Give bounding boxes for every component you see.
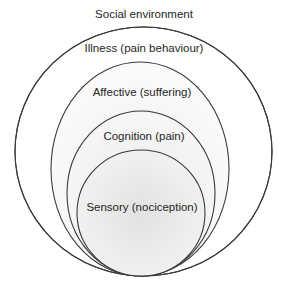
- affective-label: Affective (suffering): [0, 85, 286, 99]
- illness-label: Illness (pain behaviour): [0, 41, 288, 55]
- sensory-label: Sensory (nociception): [0, 200, 286, 214]
- social-environment-label: Social environment: [0, 7, 288, 21]
- cognition-label: Cognition (pain): [0, 129, 288, 143]
